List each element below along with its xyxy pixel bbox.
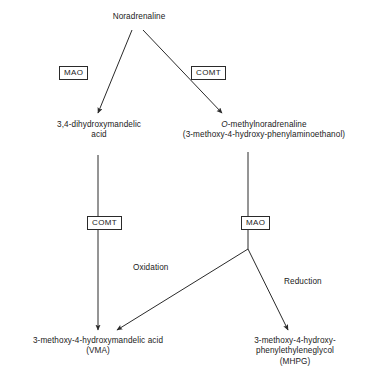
node-mhpg-line2: phenylethyleneglycol xyxy=(212,346,378,356)
arrow-oxidation-to-vma xyxy=(117,249,248,330)
node-vma-line1: 3-methoxy-4-hydroxymandelic acid xyxy=(0,336,196,346)
node-noradrenaline-label: Noradrenaline xyxy=(113,12,166,21)
reaction-label-oxidation: Oxidation xyxy=(133,263,169,272)
enzyme-box-mao-bottom: MAO xyxy=(241,216,270,230)
node-mhpg-line1: 3-methoxy-4-hydroxy- xyxy=(212,336,378,346)
node-noradrenaline: Noradrenaline xyxy=(0,12,278,22)
arrow-reduction-to-mhpg xyxy=(248,249,288,330)
enzyme-box-mao-top: MAO xyxy=(59,66,88,80)
node-omn-line1-rest: -methylnoradrenaline xyxy=(228,120,307,129)
node-omn-line2: (3-methoxy-4-hydroxy-phenylaminoethanol) xyxy=(150,130,378,140)
enzyme-box-comt-bottom: COMT xyxy=(87,216,122,230)
arrow-noradrenaline-to-dhma xyxy=(98,30,132,113)
node-mhpg: 3-methoxy-4-hydroxy- phenylethyleneglyco… xyxy=(212,336,378,367)
catecholamine-metabolism-diagram: { "diagram": { "title": "Noradrenaline m… xyxy=(0,0,378,386)
node-mhpg-line3: (MHPG) xyxy=(212,357,378,367)
enzyme-box-comt-top: COMT xyxy=(191,66,226,80)
node-o-methylnoradrenaline: O-methylnoradrenaline (3-methoxy-4-hydro… xyxy=(150,120,378,141)
reaction-label-reduction: Reduction xyxy=(284,277,322,286)
node-omn-line1: O-methylnoradrenaline xyxy=(150,120,378,130)
pathway-arrows xyxy=(0,0,378,386)
node-vma: 3-methoxy-4-hydroxymandelic acid (VMA) xyxy=(0,336,196,357)
node-vma-line2: (VMA) xyxy=(0,346,196,356)
